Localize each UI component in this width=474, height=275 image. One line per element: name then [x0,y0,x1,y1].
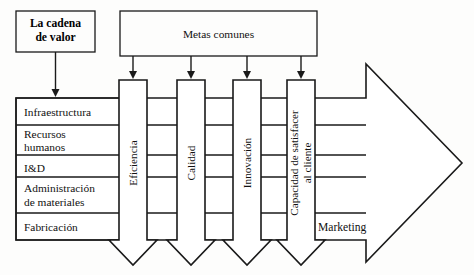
goal-arrow-2-label-group: Calidad [185,145,197,180]
row-label-5: Fabricación [24,221,78,233]
goal-arrow-3-label-group: Innovación [241,137,253,188]
title-box-line1: La cadena [30,17,81,30]
connector-goals-1 [129,56,137,79]
row-label-group-3: I&D [24,162,45,174]
row-label-group-2: Recursos humanos [24,128,66,153]
connector-goals-4-arrowhead [297,71,305,79]
connector-goals-3-arrowhead [243,71,251,79]
row-label-4-line2: de materiales [24,196,85,208]
goal-arrow-1-label-group: Eficiencia [127,140,139,185]
row-label-4: Administración [24,182,95,194]
goal-arrow-2-label: Calidad [185,145,197,180]
title-box-line2: de valor [35,31,75,44]
diagram-canvas: La cadena de valor Metas comunes [0,0,474,275]
goal-arrow-4-label: Capacidad de satisfacer [288,110,300,216]
connector-goals-2-arrowhead [187,71,195,79]
goals-box-label: Metas comunes [183,28,255,40]
connector-goals-2 [187,56,195,79]
value-chain-diagram: La cadena de valor Metas comunes [0,0,474,275]
output-arrow-label-group: Marketing [318,221,366,234]
title-box: La cadena de valor [16,11,95,52]
connector-title-to-chain [52,52,60,97]
connector-goals-4 [297,56,305,79]
connector-title-arrowhead [52,89,60,97]
goal-arrow-3-label: Innovación [241,137,253,188]
connector-goals-3 [243,56,251,79]
output-arrow-label: Marketing [318,221,366,234]
goal-arrow-1-label: Eficiencia [127,140,139,185]
row-label-2-line2: humanos [24,141,66,153]
row-label-3: I&D [24,162,45,174]
connector-goals-1-arrowhead [129,71,137,79]
row-label-group-1: Infraestructura [24,106,91,118]
row-label-2: Recursos [24,128,66,140]
row-label-group-5: Fabricación [24,221,78,233]
goal-arrow-4-label-line2: al cliente [301,143,313,184]
row-label-1: Infraestructura [24,106,91,118]
goals-box: Metas comunes [120,11,317,56]
